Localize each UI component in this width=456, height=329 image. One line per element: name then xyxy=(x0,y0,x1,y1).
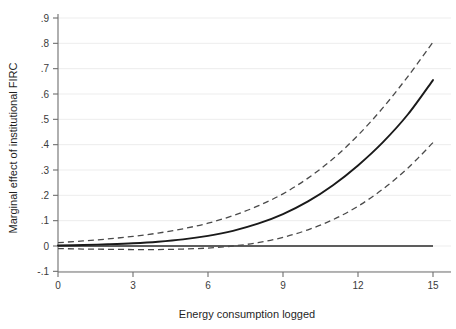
y-tick-label: .8 xyxy=(41,38,50,49)
y-tick-label: .7 xyxy=(41,63,50,74)
lower-ci-line xyxy=(58,143,433,250)
y-tick-label: .3 xyxy=(41,165,50,176)
y-tick-label: .9 xyxy=(41,13,50,24)
y-tick-label: -.1 xyxy=(37,266,49,277)
x-tick-labels: 03691215 xyxy=(55,280,439,291)
x-tick-label: 6 xyxy=(205,280,211,291)
y-tick-label: .5 xyxy=(41,114,50,125)
y-tick-label: .1 xyxy=(41,215,50,226)
marginal-effects-plot: -.10.1.2.3.4.5.6.7.8.9 03691215 Energy c… xyxy=(0,0,456,329)
x-tick-label: 9 xyxy=(280,280,286,291)
x-tick-label: 0 xyxy=(55,280,61,291)
y-axis-title: Marginal effect of institutional FIRC xyxy=(7,62,19,233)
x-tick-label: 3 xyxy=(130,280,136,291)
upper-ci-line xyxy=(58,42,433,243)
x-tick-label: 15 xyxy=(427,280,439,291)
x-tick-label: 12 xyxy=(352,280,364,291)
chart-canvas: -.10.1.2.3.4.5.6.7.8.9 03691215 Energy c… xyxy=(0,0,456,329)
data-series xyxy=(58,42,433,250)
y-tick-label: 0 xyxy=(43,241,49,252)
y-tick-labels: -.10.1.2.3.4.5.6.7.8.9 xyxy=(37,13,49,277)
axes xyxy=(58,14,451,272)
y-tick-label: .6 xyxy=(41,89,50,100)
gridlines xyxy=(58,18,451,271)
y-tick-label: .2 xyxy=(41,190,50,201)
x-axis-title: Energy consumption logged xyxy=(179,308,315,320)
y-tick-label: .4 xyxy=(41,139,50,150)
